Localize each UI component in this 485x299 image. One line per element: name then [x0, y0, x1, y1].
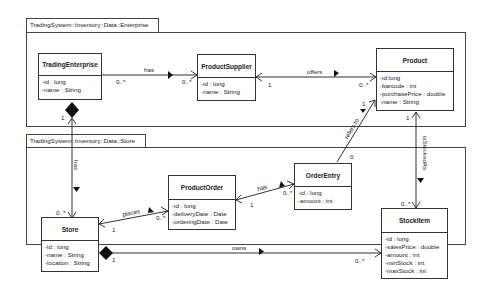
attribute: -id : long [42, 78, 98, 86]
class-store[interactable]: Store -id : long -name : String -locatio… [41, 217, 99, 272]
attribute: -id : long [172, 202, 232, 210]
mult-te-has-store-src: 1 [61, 114, 64, 121]
class-attributes: -id : long -name : String [39, 76, 101, 96]
class-attributes: -id : long -salesPrice : double -amount … [382, 233, 447, 277]
class-name: ProductSupplier [198, 55, 255, 78]
class-name: Product [377, 49, 453, 72]
mult-oe-refers-p-dst: 1 [362, 100, 365, 107]
class-attributes: -id : long -name : String [198, 78, 255, 98]
attribute: -id : long [298, 189, 348, 197]
assoc-label-store-owns-si: owns [232, 244, 246, 251]
attribute: -location : String [45, 259, 95, 267]
assoc-label-p-stocked-si: isStockedAs [422, 136, 429, 170]
attribute: -id : long [201, 80, 252, 88]
mult-p-stocked-si-src: 1 [406, 114, 409, 121]
attribute: -name : String [380, 98, 450, 106]
attribute: -deliveryDate : Date [172, 210, 232, 218]
assoc-label-te-has-ps: has [144, 66, 154, 73]
mult-oe-refers-p-src: 0 [350, 153, 353, 160]
class-product-order[interactable]: ProductOrder -id : long -deliveryDate : … [168, 175, 236, 230]
class-product-supplier[interactable]: ProductSupplier -id : long -name : Strin… [197, 54, 256, 101]
class-name: StockItem [382, 209, 447, 233]
attribute: -salesPrice : double [385, 243, 444, 251]
mult-store-places-po-dst: 0..* [156, 214, 165, 221]
mult-store-owns-si-dst: 0..* [355, 257, 364, 264]
mult-p-stocked-si-dst: 0..* [401, 200, 410, 207]
attribute: -id : long [385, 235, 444, 243]
mult-po-has-oe-src: 1 [250, 201, 253, 208]
mult-te-has-store-dst: 0..* [56, 209, 65, 216]
class-trading-enterprise[interactable]: TradingEnterprise -id : long -name : Str… [38, 53, 102, 100]
mult-ps-offers-p-dst: 0..* [359, 81, 368, 88]
mult-store-places-po-src: 1 [112, 226, 115, 233]
mult-po-has-oe-dst: 0..* [283, 189, 292, 196]
class-attributes: -id : long -name : String -location : St… [42, 241, 98, 269]
class-name: Store [42, 218, 98, 241]
class-product[interactable]: Product -id:long -barcode : int -purchas… [376, 48, 454, 111]
mult-ps-offers-p-src: 1 [268, 81, 271, 88]
class-name: OrderEntry [295, 164, 351, 187]
attribute: -name : String [201, 88, 252, 96]
class-name: ProductOrder [169, 176, 235, 200]
class-stock-item[interactable]: StockItem -id : long -salesPrice : doubl… [381, 208, 448, 279]
attribute: -orderingDate : Date [172, 218, 232, 226]
class-attributes: -id : long -amount : int [295, 187, 351, 207]
attribute: -purchasePrice : double [380, 90, 450, 98]
attribute: -id:long [380, 74, 450, 82]
mult-te-has-ps-src: 0..* [116, 78, 125, 85]
class-attributes: -id:long -barcode : int -purchasePrice :… [377, 72, 453, 108]
mult-te-has-ps-dst: 0..* [182, 78, 191, 85]
attribute: -barcode : int [380, 82, 450, 90]
attribute: -name : String [45, 251, 95, 259]
attribute: -amount : int [298, 197, 348, 205]
class-order-entry[interactable]: OrderEntry -id : long -amount : int [294, 163, 352, 210]
attribute: -amount : int [385, 251, 444, 259]
attribute: -id : long [45, 243, 95, 251]
attribute: -maxStock : int [385, 267, 444, 275]
mult-store-owns-si-src: 1 [112, 256, 115, 263]
assoc-label-ps-offers-p: offers [307, 68, 322, 75]
class-attributes: -id : long -deliveryDate : Date -orderin… [169, 200, 235, 228]
attribute: -name : String [42, 86, 98, 94]
assoc-label-te-has-store: has [73, 160, 80, 170]
class-name: TradingEnterprise [39, 54, 101, 76]
attribute: -minStock : int [385, 259, 444, 267]
